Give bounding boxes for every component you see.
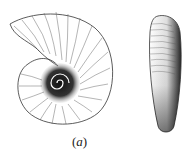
ammonite-ventral-view [149, 16, 181, 132]
ammonite-lateral-view [10, 12, 113, 124]
caption-close-paren: ) [83, 134, 87, 149]
ammonite-illustration [0, 0, 193, 157]
figure-caption: (a) [72, 134, 87, 150]
